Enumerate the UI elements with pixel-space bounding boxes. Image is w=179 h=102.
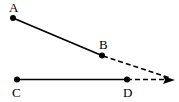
arrowhead-icon (163, 76, 175, 84)
point-label-b: B (99, 38, 108, 51)
point-dot-d (124, 77, 130, 83)
point-dot-a (10, 15, 16, 21)
point-dot-c (14, 77, 20, 83)
point-label-d: D (123, 86, 132, 99)
segment-ab (13, 18, 103, 56)
geometry-figure: A B C D (0, 0, 179, 102)
point-dot-b (99, 53, 105, 59)
point-label-c: C (12, 86, 21, 99)
geometry-canvas (0, 0, 179, 102)
dashed-ray-b-to-tip (103, 56, 170, 78)
point-label-a: A (9, 1, 18, 14)
